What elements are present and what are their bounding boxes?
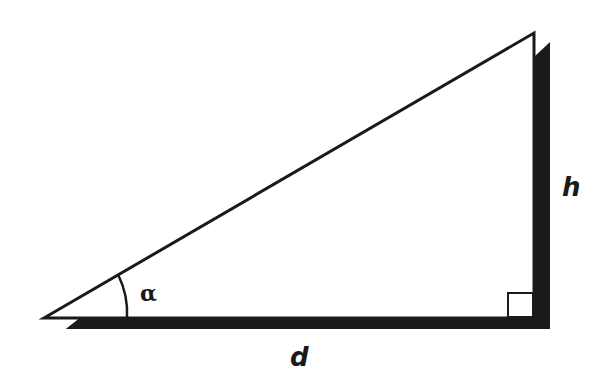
right-triangle-diagram: α h d — [0, 0, 611, 387]
height-label: h — [562, 172, 581, 202]
angle-label: α — [140, 280, 157, 306]
right-angle-marker — [508, 293, 533, 317]
base-shadow-tip — [66, 318, 80, 329]
height-shadow — [534, 42, 550, 329]
base-shadow — [66, 318, 550, 329]
triangle-outline — [44, 33, 534, 318]
distance-label: d — [290, 342, 309, 372]
